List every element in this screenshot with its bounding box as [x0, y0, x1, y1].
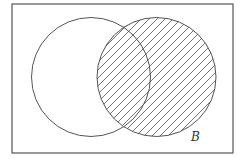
- set-b-shaded-circle: [97, 18, 216, 137]
- venn-diagram: [0, 0, 249, 159]
- set-b-label: B: [191, 131, 200, 143]
